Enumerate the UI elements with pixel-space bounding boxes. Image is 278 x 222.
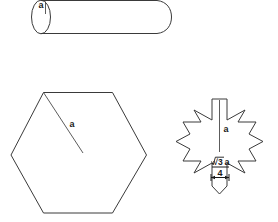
hexagon-outline [11,93,147,214]
geometry-figure-canvas: a a a √3 a 4 [0,0,278,222]
dimension-denominator: 4 [217,168,222,178]
cylinder-figure: a [32,0,172,34]
hexagon-figure: a [11,93,147,214]
star-radius-label: a [223,124,229,134]
cylinder-body-outline [41,1,172,34]
star-dimension-annotation: √3 a 4 [211,157,230,182]
star-figure: a √3 a 4 [176,99,263,194]
dimension-radicand: √3 [213,157,223,167]
hexagon-radius-line [44,93,84,154]
cylinder-radius-label: a [38,0,44,10]
hexagon-radius-label: a [69,119,75,129]
